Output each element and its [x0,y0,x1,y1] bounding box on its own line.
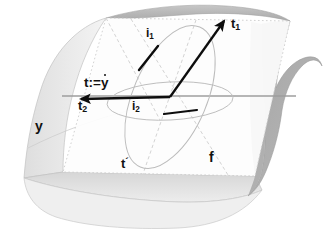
figure-svg [0,0,330,238]
label-t-prime-mark: ´ [125,156,128,167]
tangent-plane [63,18,290,176]
label-t1: t1 [231,17,240,32]
label-i2: i2 [132,100,140,114]
label-t-definition-dotted-var: y [101,76,109,90]
label-f: f [209,150,214,164]
label-t-definition: t:=y [84,76,108,90]
label-t-definition-text: t:= [84,75,101,90]
label-t1-sub: 1 [235,22,240,32]
label-i1: i1 [146,27,154,41]
label-y-text: y [35,118,43,134]
label-t2-sub: 2 [82,104,87,114]
label-f-text: f [209,149,214,165]
label-t2: t2 [78,99,87,114]
label-i1-sub: 1 [149,32,154,41]
label-y: y [35,119,43,133]
label-i2-sub: 2 [135,105,140,114]
label-t-prime: t´ [121,157,129,170]
figure-canvas: t1 t2 i1 i2 t:=y t´ y f [0,0,330,238]
tangent-plane-face [63,18,290,176]
